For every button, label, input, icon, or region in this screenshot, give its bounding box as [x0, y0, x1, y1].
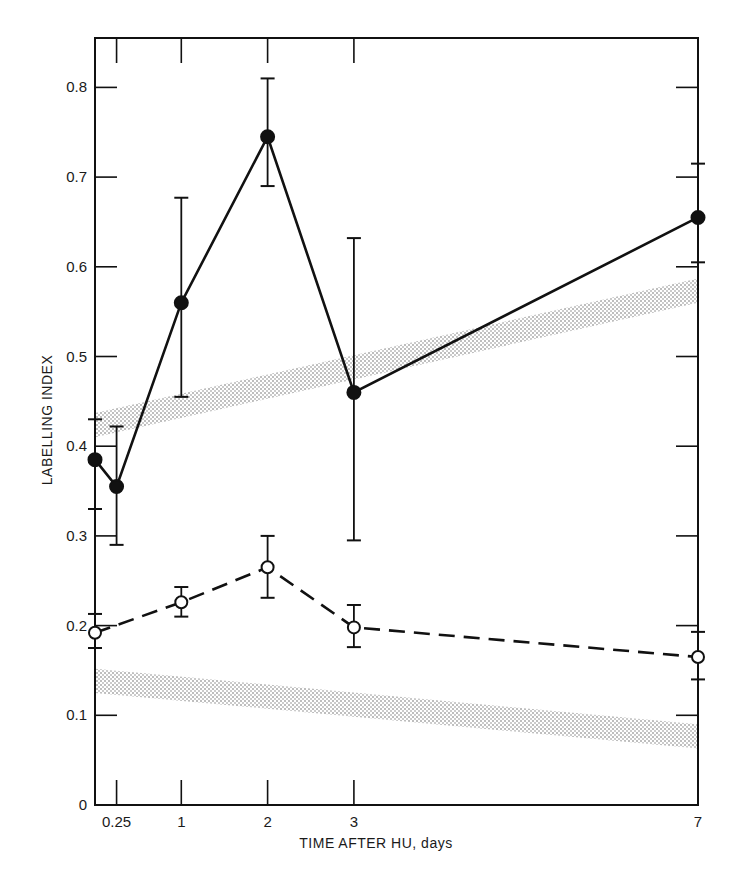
- y-tick-label: 0: [79, 796, 87, 813]
- open-circle-marker: [89, 627, 101, 639]
- x-axis-title: TIME AFTER HU, days: [299, 835, 452, 851]
- y-tick-label: 0.3: [66, 527, 87, 544]
- labelling-index-chart: 00.10.20.30.40.50.60.70.80.251237 TIME A…: [0, 0, 743, 886]
- shaded-band: [95, 669, 698, 749]
- filled-circle-marker: [347, 386, 360, 399]
- y-tick-label: 0.7: [66, 168, 87, 185]
- y-tick-label: 0.8: [66, 78, 87, 95]
- x-tick-label: 3: [350, 813, 358, 830]
- open-circle-marker: [348, 621, 360, 633]
- filled-circle-marker: [110, 480, 123, 493]
- y-tick-label: 0.4: [66, 437, 87, 454]
- y-axis-title: LABELLING INDEX: [39, 355, 55, 486]
- dashed-series-line: [95, 567, 698, 657]
- open-circle-marker: [692, 651, 704, 663]
- y-tick-label: 0.6: [66, 258, 87, 275]
- filled-circle-marker: [692, 211, 705, 224]
- y-tick-label: 0.5: [66, 348, 87, 365]
- x-tick-label: 2: [263, 813, 271, 830]
- filled-circle-marker: [261, 130, 274, 143]
- filled-circle-marker: [89, 453, 102, 466]
- x-tick-label: 7: [694, 813, 702, 830]
- shaded-bands: [95, 278, 698, 748]
- y-tick-label: 0.1: [66, 706, 87, 723]
- x-tick-label: 1: [177, 813, 185, 830]
- data-series: [88, 78, 705, 679]
- open-circle-marker: [175, 596, 187, 608]
- x-tick-label: 0.25: [102, 813, 131, 830]
- y-tick-label: 0.2: [66, 617, 87, 634]
- filled-circle-marker: [175, 296, 188, 309]
- open-circle-marker: [262, 561, 274, 573]
